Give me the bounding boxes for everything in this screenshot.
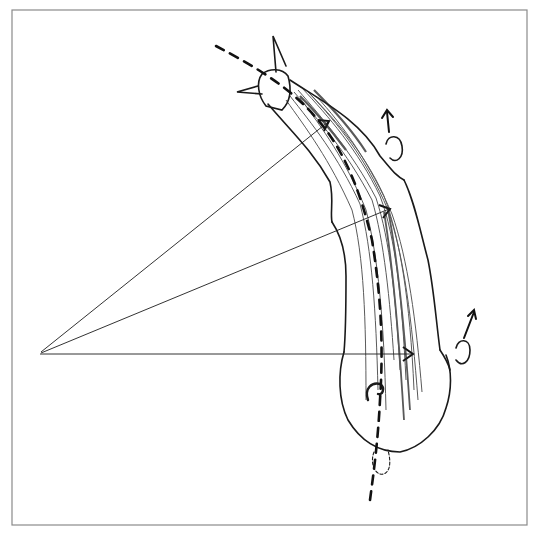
muscle-hatching (286, 88, 422, 420)
ray-arrowheads (318, 120, 413, 361)
horse-outline (237, 36, 470, 474)
force-rays (40, 122, 412, 354)
frame-border (12, 10, 527, 525)
horse-top-view-illustration (0, 0, 539, 535)
